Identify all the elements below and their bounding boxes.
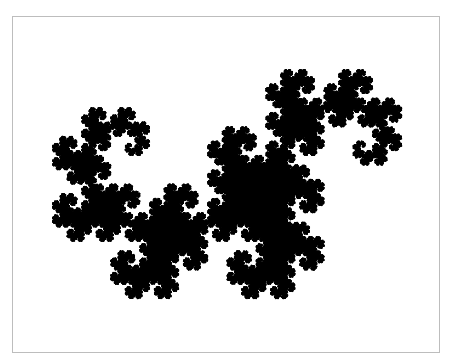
dragon-fractal-image (0, 0, 456, 363)
